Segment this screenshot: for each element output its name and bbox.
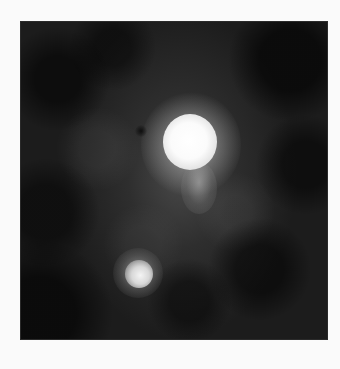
- secondary-bright-source: [125, 260, 153, 288]
- dark-knot: [135, 125, 147, 137]
- primary-bright-source: [163, 114, 217, 170]
- astronomical-image: [21, 22, 327, 339]
- page-canvas: [0, 0, 340, 369]
